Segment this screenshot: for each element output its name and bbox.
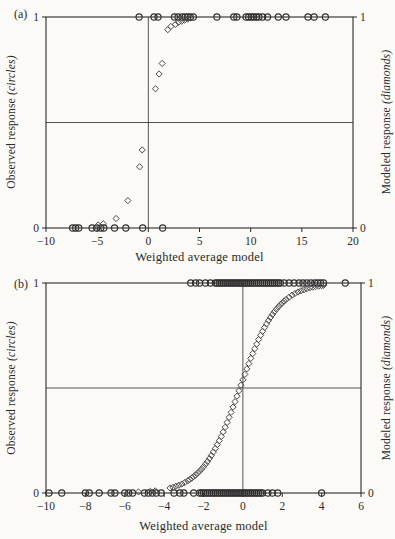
y-axis-label-left-b: Observed response (circles) bbox=[5, 321, 17, 454]
diamond-marker bbox=[301, 287, 307, 293]
x-tick-label: 10 bbox=[245, 235, 257, 247]
diamond-marker bbox=[125, 197, 131, 203]
figure-page: −10−5051015200011 (a) Observed response … bbox=[0, 0, 395, 539]
y-axis-label-left-b-text: Observed response bbox=[5, 361, 17, 455]
y-axis-label-right-b-text: Modeled response bbox=[380, 370, 392, 460]
x-tick-label: 5 bbox=[197, 235, 203, 247]
y-axis-label-right-a: Modeled response (diamonds) bbox=[380, 50, 392, 195]
x-axis-title-b: Weighted average model bbox=[46, 519, 361, 534]
y-axis-label-left-a: Observed response (circles) bbox=[5, 55, 17, 188]
diamond-marker bbox=[173, 483, 179, 489]
x-tick-label: 2 bbox=[279, 500, 285, 512]
diamond-marker bbox=[137, 164, 143, 170]
x-tick-label: −4 bbox=[158, 500, 170, 512]
diamond-marker bbox=[165, 27, 171, 33]
x-tick-label: −10 bbox=[37, 500, 55, 512]
y-axis-label-right-b: Modeled response (diamonds) bbox=[380, 316, 392, 461]
x-tick-label: −5 bbox=[91, 235, 103, 247]
x-tick-label: 6 bbox=[358, 500, 364, 512]
diamond-marker bbox=[152, 86, 158, 92]
x-tick-label: −6 bbox=[119, 500, 131, 512]
diamond-marker bbox=[135, 489, 141, 495]
panel-label-a: (a) bbox=[14, 7, 27, 22]
y-tick-label-left: 1 bbox=[33, 277, 39, 289]
y-axis-label-left-a-em: (circles) bbox=[5, 55, 17, 95]
diamond-marker bbox=[113, 215, 119, 221]
x-tick-label: 0 bbox=[240, 500, 246, 512]
x-tick-label: −2 bbox=[197, 500, 209, 512]
x-tick-label: −10 bbox=[37, 235, 55, 247]
x-tick-label: 4 bbox=[319, 500, 325, 512]
y-tick-label-right: 0 bbox=[368, 487, 374, 499]
x-tick-label: 20 bbox=[347, 235, 359, 247]
y-tick-label-left: 0 bbox=[33, 487, 39, 499]
y-tick-label-left: 0 bbox=[33, 222, 39, 234]
y-tick-label-right: 1 bbox=[360, 11, 366, 23]
y-axis-label-left-b-em: (circles) bbox=[5, 321, 17, 361]
diamond-marker bbox=[156, 71, 162, 77]
x-tick-label: 15 bbox=[296, 235, 308, 247]
x-tick-label: −8 bbox=[79, 500, 91, 512]
y-axis-label-left-a-text: Observed response bbox=[5, 95, 17, 189]
panel-b-plot: −10−8−6−4−202460011 bbox=[0, 270, 395, 539]
y-axis-label-right-a-text: Modeled response bbox=[380, 104, 392, 194]
x-axis-title-a: Weighted average model bbox=[46, 250, 353, 265]
y-axis-label-right-b-em: (diamonds) bbox=[380, 316, 392, 370]
panel-a-plot: −10−5051015200011 bbox=[0, 0, 395, 270]
diamond-marker bbox=[139, 147, 145, 153]
y-axis-label-right-a-em: (diamonds) bbox=[380, 50, 392, 104]
y-tick-label-left: 1 bbox=[33, 11, 39, 23]
y-tick-label-right: 0 bbox=[360, 222, 366, 234]
x-tick-label: 0 bbox=[145, 235, 151, 247]
panel-label-b: (b) bbox=[14, 277, 28, 292]
y-tick-label-right: 1 bbox=[368, 277, 374, 289]
diamond-marker bbox=[159, 60, 165, 66]
